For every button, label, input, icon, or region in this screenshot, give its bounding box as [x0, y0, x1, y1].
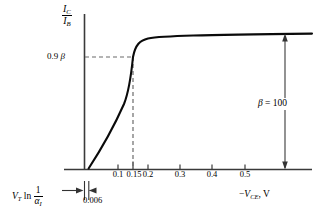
y-tick-label-09beta: 0.9 β [47, 52, 65, 61]
offset-value-label: 0.006 [83, 196, 102, 205]
x-tick-label: 0.4 [203, 170, 221, 179]
figure-container: IC IB 0.9 β 0.1 0.15 0.2 0.3 0.4 0.5 −VC… [0, 0, 323, 219]
beta-symbol-icon: β [61, 51, 65, 61]
y-axis-fraction: IC IB [62, 4, 72, 27]
equals-sign: = [265, 98, 270, 108]
x-tick-label: 0.5 [236, 170, 254, 179]
vt-subscript: T [18, 195, 22, 202]
offset-voltage-expression: VT ln 1αI [12, 186, 43, 208]
x-axis-label: −VCE, V [239, 190, 270, 200]
offset-fraction: 1αI [34, 186, 43, 208]
y-axis-denominator: IB [62, 16, 72, 27]
beta-symbol-icon: β [258, 98, 263, 108]
ln-operator: ln [24, 191, 31, 201]
y-axis-label: IC IB [62, 4, 72, 27]
beta-equals-100-label: β = 100 [256, 98, 289, 110]
x-axis-unit: , V [258, 189, 269, 199]
x-tick-label: 0.2 [139, 170, 157, 179]
y-tick-value: 0.9 [47, 51, 58, 61]
transistor-saturation-plot [0, 0, 323, 219]
offset-denominator: αI [34, 197, 43, 208]
x-tick-label: 0.3 [171, 170, 189, 179]
beta-numeric-value: 100 [273, 98, 287, 108]
